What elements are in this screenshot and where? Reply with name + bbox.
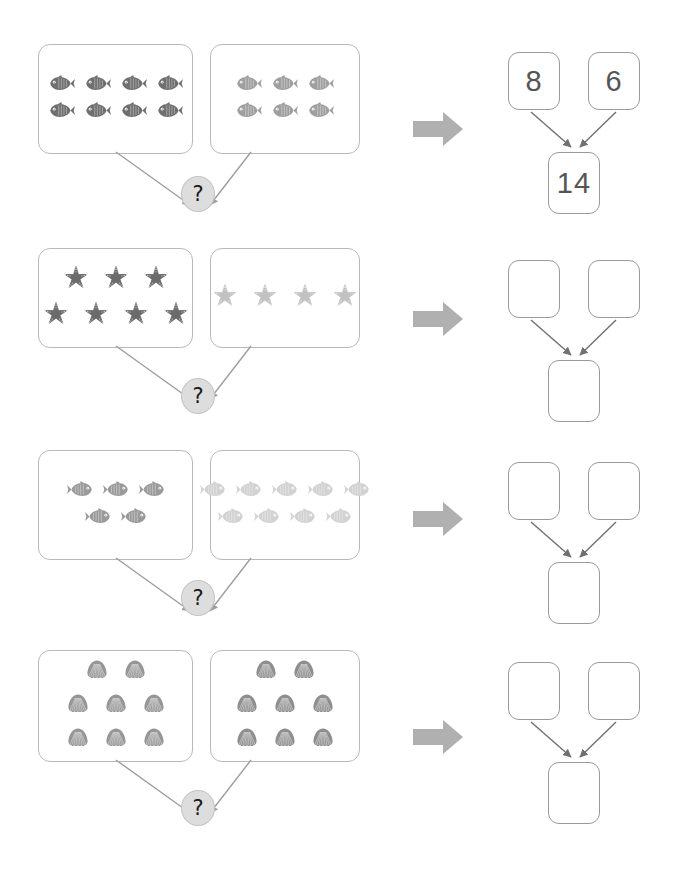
fish-icon-cell — [272, 75, 298, 96]
right-arrow-icon — [413, 500, 465, 538]
fish-icon-cell — [308, 481, 334, 502]
starfish-icon-cell — [43, 301, 69, 331]
shell-icon-cell — [66, 692, 90, 720]
right-group-box[interactable] — [210, 44, 360, 154]
question-mark-badge[interactable]: ? — [181, 176, 215, 212]
starfish-icon-cell — [123, 301, 149, 331]
shell-icon — [235, 692, 259, 716]
shell-icon — [104, 726, 128, 750]
transition-arrow — [413, 500, 465, 538]
number-bond — [498, 462, 658, 637]
fish-icon — [85, 508, 111, 525]
icon-row — [36, 301, 196, 331]
shell-icon-cell — [104, 726, 128, 754]
fish-icon-cell — [103, 481, 129, 502]
bond-part-b[interactable] — [588, 462, 640, 520]
starfish-icon — [83, 301, 109, 327]
left-group-box[interactable] — [38, 450, 193, 560]
fish-icon-cell — [308, 75, 334, 96]
right-group-box[interactable] — [210, 450, 360, 560]
bond-part-b[interactable]: 6 — [588, 52, 640, 110]
fish-icon — [85, 102, 111, 119]
left-group-box[interactable] — [38, 650, 193, 762]
shell-icon-cell — [273, 726, 297, 754]
right-arrow-icon — [413, 300, 465, 338]
shell-icon — [66, 692, 90, 716]
transition-arrow — [413, 110, 465, 148]
bond-part-a[interactable] — [508, 260, 560, 318]
starfish-icon — [43, 301, 69, 327]
fish-icon — [103, 481, 129, 498]
fish-icon-cell — [308, 102, 334, 123]
icon-row — [44, 75, 188, 96]
fish-icon — [308, 481, 334, 498]
shell-icon — [273, 692, 297, 716]
right-arrow-icon — [413, 110, 465, 148]
fish-icon — [85, 75, 111, 92]
icon-row — [231, 102, 339, 123]
bond-total[interactable] — [548, 360, 600, 422]
shell-icon — [142, 692, 166, 716]
fish-icon-cell — [85, 102, 111, 123]
fish-icon — [308, 75, 334, 92]
starfish-icon-cell — [292, 283, 318, 313]
fish-icon-cell — [236, 481, 262, 502]
question-mark-label: ? — [192, 586, 203, 610]
question-mark-label: ? — [192, 384, 203, 408]
bond-total[interactable] — [548, 762, 600, 824]
right-group-box[interactable] — [210, 650, 360, 762]
icon-row — [56, 265, 176, 295]
shell-icon — [311, 692, 335, 716]
shell-icon-cell — [235, 692, 259, 720]
shell-icon — [273, 726, 297, 750]
fish-icon — [49, 75, 75, 92]
shell-icon — [104, 692, 128, 716]
left-group-icons — [39, 45, 192, 153]
starfish-icon-cell — [332, 283, 358, 313]
fish-icon — [308, 102, 334, 119]
starfish-icon-cell — [163, 301, 189, 331]
starfish-icon-cell — [103, 265, 129, 295]
fish-icon-cell — [157, 102, 183, 123]
fish-icon — [236, 102, 262, 119]
fish-icon-cell — [49, 102, 75, 123]
bond-total[interactable] — [548, 562, 600, 624]
question-mark-badge[interactable]: ? — [181, 378, 215, 414]
right-group-box[interactable] — [210, 248, 360, 348]
icon-row — [78, 658, 154, 686]
bond-part-a[interactable] — [508, 462, 560, 520]
starfish-icon-cell — [252, 283, 278, 313]
bond-total[interactable]: 14 — [548, 152, 600, 214]
question-mark-label: ? — [192, 796, 203, 820]
fish-icon-cell — [236, 102, 262, 123]
fish-icon-cell — [121, 508, 147, 529]
shell-icon — [85, 658, 109, 682]
fish-icon-cell — [254, 508, 280, 529]
starfish-icon — [103, 265, 129, 291]
fish-icon — [344, 481, 370, 498]
shell-icon-cell — [104, 692, 128, 720]
bond-part-b[interactable] — [588, 662, 640, 720]
icon-row — [228, 692, 342, 720]
left-group-box[interactable] — [38, 44, 193, 154]
fish-icon-cell — [121, 102, 147, 123]
fish-icon — [290, 508, 316, 525]
starfish-icon-cell — [212, 283, 238, 313]
fish-icon — [272, 75, 298, 92]
fish-icon-cell — [344, 481, 370, 502]
icon-row — [231, 75, 339, 96]
left-group-box[interactable] — [38, 248, 193, 348]
starfish-icon — [163, 301, 189, 327]
bond-part-b[interactable] — [588, 260, 640, 318]
question-mark-badge[interactable]: ? — [181, 790, 215, 826]
bond-part-a[interactable] — [508, 662, 560, 720]
starfish-icon-cell — [63, 265, 89, 295]
fish-icon — [49, 102, 75, 119]
starfish-icon — [332, 283, 358, 309]
bond-part-a[interactable]: 8 — [508, 52, 560, 110]
shell-icon-cell — [142, 692, 166, 720]
starfish-icon — [63, 265, 89, 291]
question-mark-badge[interactable]: ? — [181, 580, 215, 616]
icon-row — [213, 508, 357, 529]
shell-icon — [311, 726, 335, 750]
